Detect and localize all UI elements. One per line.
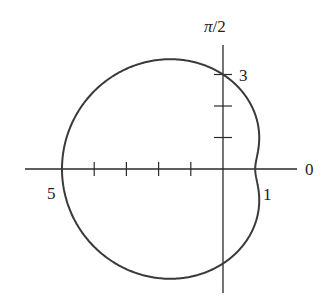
label-one: 1 — [263, 185, 272, 204]
label-three: 3 — [239, 66, 248, 85]
polar-plot: 0 π/2 1 3 5 — [0, 0, 330, 299]
label-zero: 0 — [305, 160, 314, 179]
axis-ticks — [94, 75, 232, 177]
label-pi-over-2: π/2 — [204, 17, 226, 36]
label-five: 5 — [47, 184, 56, 203]
